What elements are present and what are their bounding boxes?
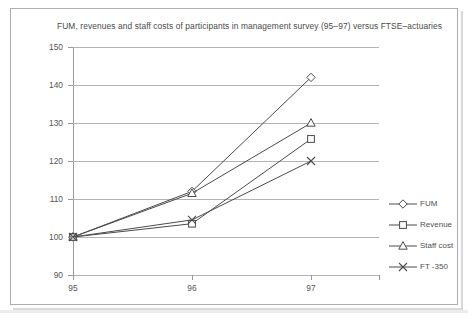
plot-area [73, 47, 379, 275]
legend-item-ft-350[interactable]: FT -350 [389, 260, 467, 281]
x-axis-tick [311, 275, 312, 280]
y-axis-tick-label: 110 [29, 194, 63, 204]
legend-label: Revenue [420, 220, 452, 229]
series-layer [73, 47, 379, 275]
chart-frame: FUM, revenues and staff costs of partici… [10, 8, 458, 305]
chart-screenshot: FUM, revenues and staff costs of partici… [0, 0, 468, 327]
x-axis-tick-label: 97 [296, 283, 326, 293]
y-axis-tick-label: 130 [29, 118, 63, 128]
x-axis-tick-label: 96 [177, 283, 207, 293]
legend-label: FT -350 [420, 262, 448, 271]
chart-legend: FUMRevenueStaff costFT -350 [389, 197, 467, 281]
x-axis-tick [192, 275, 193, 280]
gridline [73, 275, 379, 276]
legend-item-staff-cost[interactable]: Staff cost [389, 239, 467, 260]
y-axis-tick-labels: 90100110120130140150 [25, 9, 63, 327]
diamond-marker-icon [389, 197, 417, 211]
y-axis-tick [68, 237, 73, 238]
y-axis-tick-label: 100 [29, 232, 63, 242]
y-axis-tick [68, 161, 73, 162]
x-axis-tick-label: 95 [58, 283, 88, 293]
y-axis-tick [68, 123, 73, 124]
square-marker-icon [389, 218, 417, 232]
x-axis-end-tick [379, 275, 380, 280]
legend-item-revenue[interactable]: Revenue [389, 218, 467, 239]
legend-label: FUM [420, 199, 437, 208]
y-axis-tick [68, 85, 73, 86]
chart-title: FUM, revenues and staff costs of partici… [57, 21, 437, 31]
scan-edge [0, 310, 468, 313]
legend-item-fum[interactable]: FUM [389, 197, 467, 218]
x-axis-tick [73, 275, 74, 280]
series-line-fum [73, 77, 311, 237]
y-axis-tick-label: 120 [29, 156, 63, 166]
cross-marker-icon [389, 260, 417, 274]
triangle-marker-icon [389, 239, 417, 253]
data-point-marker [307, 119, 315, 127]
legend-label: Staff cost [420, 241, 453, 250]
data-point-marker [308, 136, 315, 143]
y-axis-tick-label: 90 [29, 270, 63, 280]
data-point-marker [189, 220, 196, 227]
data-point-marker [307, 157, 315, 165]
y-axis-tick [68, 47, 73, 48]
y-axis-tick-label: 140 [29, 80, 63, 90]
y-axis-tick-label: 150 [29, 42, 63, 52]
y-axis-tick [68, 199, 73, 200]
